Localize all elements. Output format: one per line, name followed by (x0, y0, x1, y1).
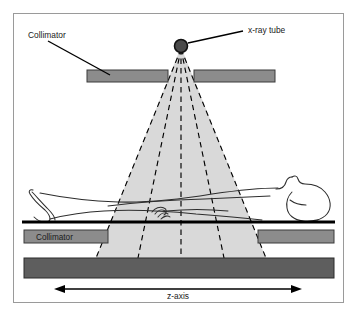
ct-scanner-geometry-figure: Collimator x-ray tube Collimator z-axis (0, 0, 356, 321)
xray-tube-label: x-ray tube (248, 25, 286, 35)
upper-left-collimator-bar (87, 70, 168, 82)
lower-right-collimator-bar (258, 230, 334, 243)
detector-array (24, 258, 334, 278)
x-ray-tube-source (175, 40, 188, 53)
collimator-upper-label: Collimator (28, 30, 66, 40)
upper-right-collimator-bar (194, 70, 275, 82)
collimator-lower-label: Collimator (36, 233, 73, 242)
ct-geometry-diagram: Collimator x-ray tube Collimator z-axis (0, 0, 356, 321)
z-axis-label: z-axis (167, 291, 189, 301)
